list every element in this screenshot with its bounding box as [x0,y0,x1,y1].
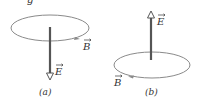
top-text-fragment: g [27,0,33,5]
panel-b: E B (b) [113,11,190,97]
e-label-a: E [54,66,63,77]
panel-a: E B (a) [11,15,91,97]
arrow-down-icon [47,73,54,80]
e-label-b: E [156,16,165,27]
caption-a: (a) [39,87,52,97]
arrow-up-icon [148,11,155,18]
b-label-a: B [82,41,90,52]
b-label-b: B [113,77,121,88]
induced-field-diagram: g E B (a) E B (b) [0,0,197,105]
caption-b: (b) [145,87,158,97]
